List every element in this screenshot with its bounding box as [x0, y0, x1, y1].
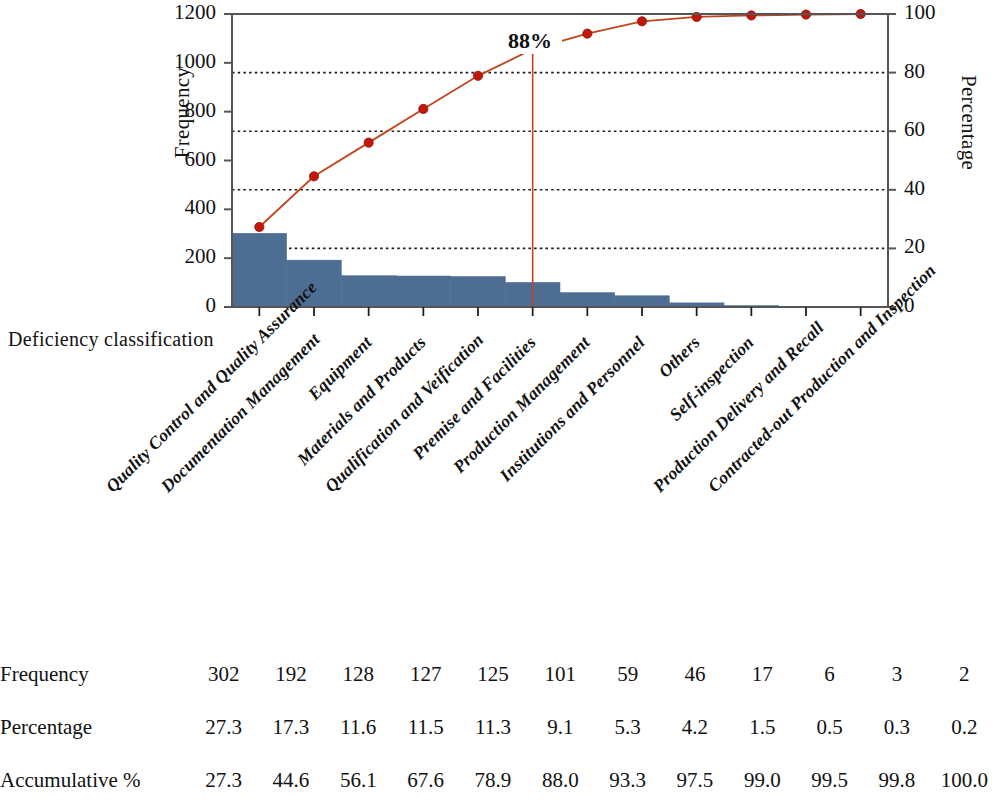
y-axis-left-tick-600: 600 — [146, 147, 216, 172]
x-axis-title: Deficiency classification — [8, 328, 214, 351]
table-cell: 67.6 — [392, 754, 459, 807]
table-cell: 93.3 — [594, 754, 661, 807]
table-cell: 88.0 — [527, 754, 594, 807]
pareto-chart: Frequency Percentage Deficiency classifi… — [0, 0, 998, 640]
table-cell: 4.2 — [661, 701, 728, 754]
table-cell: 11.5 — [392, 701, 459, 754]
table-row-header: Percentage — [0, 701, 190, 754]
y-axis-right-tick-40: 40 — [904, 176, 974, 201]
table-cell: 9.1 — [527, 701, 594, 754]
table-cell: 11.6 — [325, 701, 392, 754]
table-cell: 44.6 — [257, 754, 324, 807]
table-cell: 127 — [392, 648, 459, 701]
y-axis-right-tick-20: 20 — [904, 234, 974, 259]
table-cell: 11.3 — [459, 701, 526, 754]
table-cell: 0.3 — [863, 701, 930, 754]
table-row: Frequency302192128127125101594617632 — [0, 648, 998, 701]
table-cell: 101 — [527, 648, 594, 701]
table-cell: 97.5 — [661, 754, 728, 807]
table-row: Percentage27.317.311.611.511.39.15.34.21… — [0, 701, 998, 754]
table-cell: 6 — [796, 648, 863, 701]
y-axis-left-tick-400: 400 — [146, 195, 216, 220]
table-cell: 99.8 — [863, 754, 930, 807]
table-cell: 1.5 — [729, 701, 796, 754]
pareto-data-table: Frequency302192128127125101594617632Perc… — [0, 648, 998, 807]
table-cell: 27.3 — [190, 754, 257, 807]
y-axis-left-tick-0: 0 — [146, 293, 216, 318]
frequency-bars — [232, 233, 888, 307]
table-cell: 302 — [190, 648, 257, 701]
table-cell: 0.2 — [931, 701, 998, 754]
table-row: Accumulative %27.344.656.167.678.988.093… — [0, 754, 998, 807]
table-cell: 99.5 — [796, 754, 863, 807]
table-cell: 192 — [257, 648, 324, 701]
table-cell: 125 — [459, 648, 526, 701]
table-cell: 17 — [729, 648, 796, 701]
y-axis-right-tick-100: 100 — [904, 0, 974, 25]
table-cell: 17.3 — [257, 701, 324, 754]
table-cell: 5.3 — [594, 701, 661, 754]
y-axis-left-tick-1200: 1200 — [146, 0, 216, 25]
table-cell: 128 — [325, 648, 392, 701]
table-cell: 2 — [931, 648, 998, 701]
y-axis-right-tick-60: 60 — [904, 117, 974, 142]
table-cell: 0.5 — [796, 701, 863, 754]
table-cell: 27.3 — [190, 701, 257, 754]
table-cell: 78.9 — [459, 754, 526, 807]
y-axis-left-tick-800: 800 — [146, 98, 216, 123]
table-row-header: Frequency — [0, 648, 190, 701]
table-cell: 46 — [661, 648, 728, 701]
summary-table: Frequency302192128127125101594617632Perc… — [0, 648, 998, 807]
table-row-header: Accumulative % — [0, 754, 190, 807]
table-cell: 59 — [594, 648, 661, 701]
table-cell: 99.0 — [729, 754, 796, 807]
y-axis-left-tick-1000: 1000 — [146, 49, 216, 74]
y-axis-right-tick-80: 80 — [904, 59, 974, 84]
table-cell: 100.0 — [931, 754, 998, 807]
table-cell: 56.1 — [325, 754, 392, 807]
chart-canvas — [0, 0, 998, 640]
table-cell: 3 — [863, 648, 930, 701]
y-axis-left-tick-200: 200 — [146, 244, 216, 269]
annotation-88-percent: 88% — [498, 28, 562, 54]
